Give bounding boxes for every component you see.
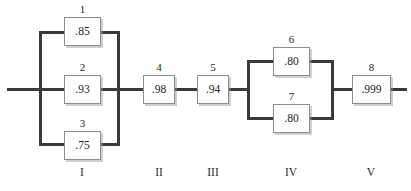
block-3-reliability-value: .75 (75, 140, 89, 152)
wire-stage1-branch3-left (39, 143, 66, 146)
block-5-reliability-value: .94 (206, 84, 220, 96)
block-3-id-label: 3 (64, 118, 101, 129)
block-5-id-label: 5 (197, 62, 229, 73)
block-8-reliability-value: .999 (361, 84, 381, 96)
block-8: .999 (352, 75, 391, 104)
block-7-reliability-value: .80 (284, 113, 298, 125)
reliability-block-diagram: .851.932.753.984.945.806.807.9998 IIIIII… (0, 0, 411, 191)
block-6-id-label: 6 (273, 34, 310, 45)
block-6-reliability-value: .80 (284, 56, 298, 68)
block-5: .94 (197, 75, 229, 104)
stage-label-III: III (183, 167, 243, 179)
wire-stage1-to-stage2 (117, 88, 145, 91)
stage-label-V: V (341, 167, 401, 179)
block-1-reliability-value: .85 (75, 26, 89, 38)
block-4-id-label: 4 (143, 62, 175, 73)
wire-stage4-left-bus (247, 60, 250, 120)
block-4-reliability-value: .98 (152, 84, 166, 96)
block-1: .85 (64, 17, 101, 46)
stage-label-IV: IV (261, 167, 321, 179)
block-7: .80 (273, 104, 310, 133)
block-2-id-label: 2 (64, 62, 101, 73)
block-8-id-label: 8 (352, 62, 391, 73)
wire-stage4-to-stage5 (331, 88, 354, 91)
stage-label-II: II (129, 167, 189, 179)
block-1-id-label: 1 (64, 4, 101, 15)
wire-stage1-branch2-left (39, 88, 66, 91)
block-7-id-label: 7 (273, 91, 310, 102)
wire-output-lead (389, 88, 407, 91)
stage-label-I: I (52, 167, 112, 179)
block-3: .75 (64, 131, 101, 160)
wire-stage2-to-stage3 (173, 88, 199, 91)
block-4: .98 (143, 75, 175, 104)
wire-stage4-branch1-left (247, 60, 275, 63)
block-6: .80 (273, 47, 310, 76)
wire-stage1-branch1-left (39, 31, 66, 34)
wire-stage4-branch2-left (247, 117, 275, 120)
block-2-reliability-value: .93 (75, 84, 89, 96)
wire-input-lead (7, 88, 41, 91)
block-2: .93 (64, 75, 101, 104)
